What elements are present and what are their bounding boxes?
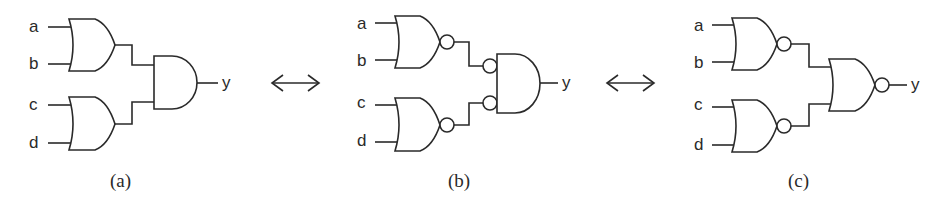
inversion-bubble-icon [483,59,497,73]
circuit-b: a b c d y (b) [357,14,571,192]
input-label-b: b [694,53,703,72]
wire-nor1-to-and [454,42,483,66]
circuit-a: a b c d y (a) [29,17,231,192]
input-label-c: c [357,93,366,112]
caption-b: (b) [448,170,470,192]
nor-gate-icon [395,98,440,151]
caption-a: (a) [110,170,131,192]
wire-g1-to-nor [791,44,833,67]
logic-diagram: a b c d y (a) a b c d [0,0,950,209]
double-arrow-icon [607,75,654,91]
nor-gate-icon [395,16,440,68]
input-label-b: b [357,51,366,70]
input-label-c: c [29,95,38,114]
input-label-a: a [694,16,704,35]
input-label-c: c [694,95,703,114]
circuit-c: a b c d y (c) [694,16,920,192]
inversion-bubble-icon [483,96,497,110]
nor-gate-icon [732,18,777,70]
or-gate-icon [69,97,115,150]
nor-gate-icon [829,59,875,111]
and-gate-icon [497,54,540,113]
input-label-a: a [29,17,39,36]
caption-c: (c) [788,170,809,192]
input-label-d: d [357,131,366,150]
wire-g2-to-nor [791,104,833,126]
nor-gate-icon [732,100,777,152]
double-arrow-icon [272,75,319,91]
input-label-d: d [694,135,703,154]
wire-or2-to-and [115,102,154,124]
inversion-bubble-icon [777,119,791,133]
output-label-y: y [911,75,920,94]
inversion-bubble-icon [875,78,889,92]
and-gate-icon [154,56,197,109]
or-gate-icon [69,19,115,71]
wire-nor2-to-and [454,103,483,125]
input-label-d: d [29,133,38,152]
inversion-bubble-icon [440,118,454,132]
wire-or1-to-and [115,45,154,65]
inversion-bubble-icon [777,37,791,51]
inversion-bubble-icon [440,35,454,49]
input-label-b: b [29,54,38,73]
output-label-y: y [562,73,571,92]
input-label-a: a [357,14,367,33]
output-label-y: y [222,73,231,92]
